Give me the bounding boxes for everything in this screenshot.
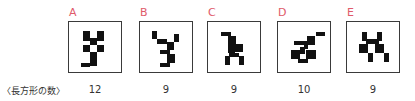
- black-rectangle: [359, 44, 368, 53]
- figure-box: [68, 21, 122, 73]
- figure-letter: C: [208, 7, 216, 19]
- figure-letter: D: [278, 7, 286, 19]
- figure-letter: E: [347, 7, 354, 19]
- black-rectangle: [97, 45, 104, 52]
- rectangle-count: 10: [276, 84, 332, 95]
- row-label-rectangle-count: 〈長方形の数〉: [2, 84, 65, 97]
- black-rectangle: [81, 63, 90, 67]
- figure-c: C9: [207, 0, 263, 101]
- black-rectangle: [167, 54, 175, 63]
- black-rectangle: [228, 36, 236, 44]
- black-rectangle: [90, 38, 97, 45]
- black-rectangle: [90, 52, 97, 59]
- black-rectangle: [306, 50, 316, 59]
- figure-letter: A: [69, 7, 77, 19]
- black-rectangle: [239, 56, 244, 65]
- figure-a: A12: [68, 0, 124, 101]
- black-rectangle: [152, 31, 157, 39]
- rectangle-count: 9: [206, 84, 262, 95]
- figure-letter: B: [140, 7, 148, 19]
- black-rectangle: [375, 44, 384, 53]
- figure-e: E9: [346, 0, 402, 101]
- black-rectangle: [235, 44, 243, 52]
- rectangle-count: 12: [67, 84, 123, 95]
- black-rectangle: [298, 59, 308, 63]
- figure-box: [346, 21, 400, 73]
- black-rectangle: [174, 34, 179, 42]
- black-rectangle: [83, 45, 90, 52]
- black-rectangle: [228, 44, 235, 53]
- black-rectangle: [90, 59, 97, 66]
- figure-d: D10: [277, 0, 333, 101]
- black-rectangle: [83, 31, 90, 38]
- figure-box: [277, 21, 331, 73]
- figure-b: B9: [139, 0, 195, 101]
- black-rectangle: [160, 63, 170, 67]
- rectangle-count: 9: [345, 84, 401, 95]
- black-rectangle: [157, 39, 167, 44]
- black-rectangle: [294, 41, 304, 45]
- figure-box: [207, 21, 261, 73]
- black-rectangle: [225, 56, 230, 65]
- black-rectangle: [291, 50, 300, 59]
- rectangle-count: 9: [138, 84, 194, 95]
- black-rectangle: [307, 36, 315, 45]
- black-rectangle: [83, 38, 90, 41]
- figure-box: [139, 21, 193, 73]
- black-rectangle: [300, 47, 305, 54]
- black-rectangle: [368, 53, 373, 62]
- black-rectangle: [97, 31, 104, 38]
- black-rectangle: [316, 32, 325, 36]
- black-rectangle: [97, 38, 104, 41]
- black-rectangle: [384, 53, 389, 62]
- black-rectangle: [229, 53, 239, 57]
- black-rectangle: [167, 42, 174, 50]
